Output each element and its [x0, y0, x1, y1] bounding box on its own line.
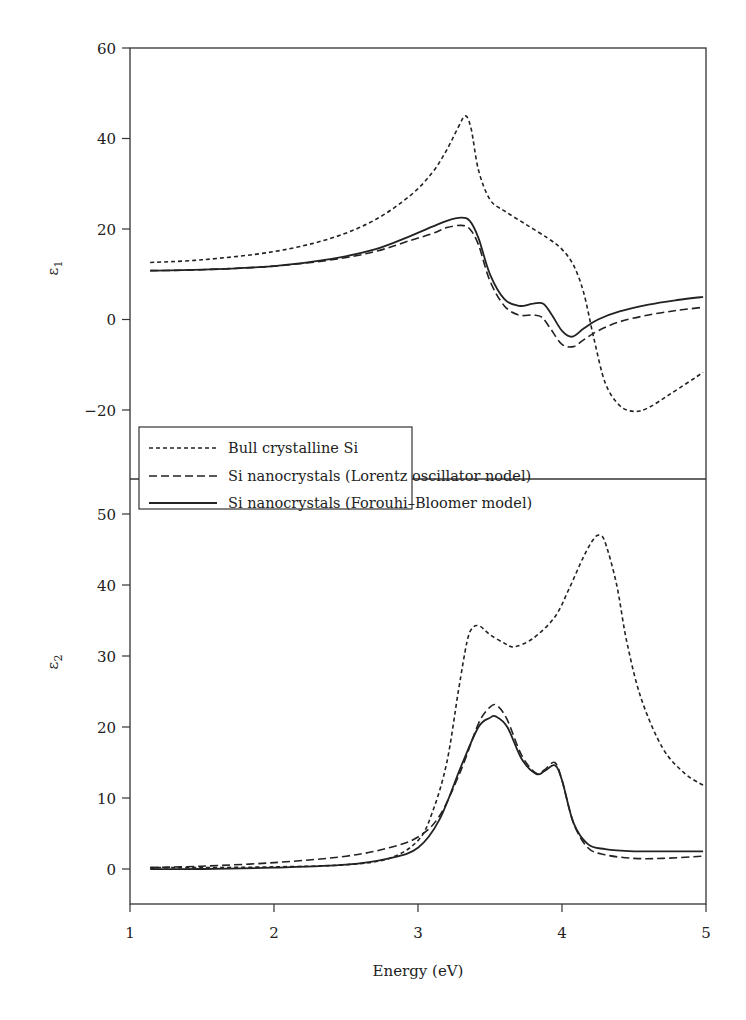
top-y-tick: 20	[97, 221, 130, 239]
legend-label: Bull crystalline Si	[228, 440, 358, 456]
top-y-axis-title: ε1	[44, 261, 65, 276]
bottom-y-tick: 30	[97, 648, 130, 666]
bottom-y-tick: 10	[97, 790, 130, 808]
top-y-tick: 40	[97, 130, 130, 148]
top-y-axis: 60 40 20 0 −20 ε1	[44, 40, 130, 420]
legend-label: Si nanocrystals (Lorentz oscillator node…	[228, 468, 531, 484]
legend: Bull crystalline Si Si nanocrystals (Lor…	[139, 427, 532, 511]
x-tick: 5	[701, 904, 711, 942]
x-axis-title: Energy (eV)	[373, 962, 464, 980]
bottom-y-tick-label: 10	[97, 790, 116, 808]
bottom-y-axis: 50 40 30 20 10 0 ε2	[44, 506, 130, 879]
x-tick-label: 5	[701, 924, 711, 942]
x-tick: 4	[557, 904, 567, 942]
series-line-short-dash	[150, 535, 703, 868]
series-line-long-dash	[150, 225, 703, 347]
top-y-tick-label: 40	[97, 130, 116, 148]
x-tick-label: 4	[557, 924, 567, 942]
x-tick: 1	[125, 904, 135, 942]
top-y-tick-label: 0	[106, 311, 116, 329]
series-line-long-dash	[150, 704, 703, 867]
x-tick-label: 1	[125, 924, 135, 942]
bottom-y-tick-label: 30	[97, 648, 116, 666]
x-axis: 1 2 3 4 5 Energy (eV)	[125, 904, 711, 980]
top-y-tick: −20	[84, 402, 130, 420]
top-y-tick: 0	[106, 311, 130, 329]
bottom-y-tick-label: 50	[97, 506, 116, 524]
dielectric-function-chart: 60 40 20 0 −20 ε1 50 40 3	[0, 0, 746, 1020]
top-y-tick-label: 60	[97, 40, 116, 58]
x-tick-label: 2	[269, 924, 279, 942]
bottom-y-tick-label: 0	[106, 861, 116, 879]
bottom-y-tick: 40	[97, 577, 130, 595]
series-line-short-dash	[150, 116, 703, 412]
bottom-panel-series	[150, 535, 703, 869]
x-tick: 3	[413, 904, 423, 942]
top-panel-series	[150, 116, 703, 412]
x-tick-label: 3	[413, 924, 423, 942]
bottom-y-axis-title: ε2	[44, 655, 65, 670]
bottom-y-tick-label: 40	[97, 577, 116, 595]
series-line-solid	[150, 716, 703, 869]
top-y-tick: 60	[97, 40, 130, 58]
x-tick: 2	[269, 904, 279, 942]
bottom-y-tick-label: 20	[97, 719, 116, 737]
legend-label: Si nanocrystals (Forouhi–Bloomer model)	[228, 495, 532, 511]
top-y-tick-label: 20	[97, 221, 116, 239]
bottom-y-tick: 0	[106, 861, 130, 879]
bottom-y-tick: 20	[97, 719, 130, 737]
bottom-y-tick: 50	[97, 506, 130, 524]
top-y-tick-label: −20	[84, 402, 116, 420]
